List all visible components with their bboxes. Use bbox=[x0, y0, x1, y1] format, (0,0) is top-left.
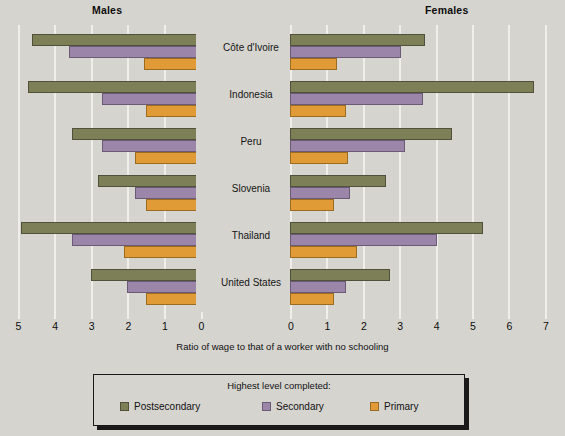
bar-female-primary-thailand bbox=[290, 246, 357, 258]
bar-female-primary-c-te-d-ivoire bbox=[290, 58, 337, 70]
bar-male-secondary-peru bbox=[102, 140, 201, 152]
bar-male-primary-c-te-d-ivoire bbox=[144, 58, 201, 70]
tick-label-right-7: 7 bbox=[543, 320, 549, 332]
bar-female-secondary-thailand bbox=[290, 234, 437, 246]
tick-left-1 bbox=[164, 312, 166, 319]
tick-right-1 bbox=[326, 312, 328, 319]
center-label-column bbox=[196, 25, 284, 312]
bar-female-secondary-indonesia bbox=[290, 93, 423, 105]
legend-label-postsecondary: Postsecondary bbox=[134, 401, 200, 412]
bar-male-postsecondary-c-te-d-ivoire bbox=[32, 34, 200, 46]
country-label-c-te-d-ivoire: Côte d'Ivoire bbox=[196, 42, 306, 53]
bar-male-secondary-united-states bbox=[127, 281, 200, 293]
bar-female-primary-united-states bbox=[290, 293, 334, 305]
bar-female-primary-indonesia bbox=[290, 105, 346, 117]
legend-label-primary: Primary bbox=[384, 401, 418, 412]
legend-swatch-primary-icon bbox=[370, 402, 379, 411]
tick-left-2 bbox=[127, 312, 129, 319]
tick-label-right-4: 4 bbox=[434, 320, 440, 332]
tick-right-7 bbox=[545, 312, 547, 319]
bar-male-secondary-thailand bbox=[72, 234, 200, 246]
legend-swatch-postsecondary-icon bbox=[120, 402, 129, 411]
bar-male-postsecondary-united-states bbox=[91, 269, 201, 281]
country-label-slovenia: Slovenia bbox=[196, 183, 306, 194]
bar-male-secondary-indonesia bbox=[102, 93, 201, 105]
tick-label-left-5: 5 bbox=[16, 320, 22, 332]
bar-female-secondary-c-te-d-ivoire bbox=[290, 46, 401, 58]
tick-label-left-3: 3 bbox=[89, 320, 95, 332]
bar-male-primary-thailand bbox=[124, 246, 201, 258]
bar-female-primary-slovenia bbox=[290, 199, 334, 211]
panel-title-males: Males bbox=[92, 4, 122, 16]
bar-male-postsecondary-slovenia bbox=[98, 175, 200, 187]
tick-right-2 bbox=[363, 312, 365, 319]
country-label-thailand: Thailand bbox=[196, 230, 306, 241]
bar-male-postsecondary-thailand bbox=[21, 222, 200, 234]
x-axis-caption: Ratio of wage to that of a worker with n… bbox=[0, 341, 565, 352]
tick-right-5 bbox=[472, 312, 474, 319]
tick-left-0 bbox=[201, 312, 203, 319]
bar-male-postsecondary-peru bbox=[72, 128, 200, 140]
tick-label-right-3: 3 bbox=[397, 320, 403, 332]
tick-label-right-0: 0 bbox=[288, 320, 294, 332]
x-axis: 54321001234567 bbox=[0, 312, 565, 342]
country-label-peru: Peru bbox=[196, 136, 306, 147]
bar-male-primary-slovenia bbox=[146, 199, 201, 211]
tick-label-left-1: 1 bbox=[162, 320, 168, 332]
bar-female-postsecondary-thailand bbox=[290, 222, 483, 234]
tick-right-6 bbox=[508, 312, 510, 319]
tick-label-left-4: 4 bbox=[52, 320, 58, 332]
country-label-indonesia: Indonesia bbox=[196, 89, 306, 100]
tick-right-4 bbox=[436, 312, 438, 319]
tick-left-3 bbox=[91, 312, 93, 319]
legend-title: Highest level completed: bbox=[94, 380, 464, 391]
bar-female-secondary-peru bbox=[290, 140, 405, 152]
bar-male-primary-indonesia bbox=[146, 105, 201, 117]
bar-male-primary-united-states bbox=[146, 293, 201, 305]
bar-female-primary-peru bbox=[290, 152, 348, 164]
tick-label-right-1: 1 bbox=[324, 320, 330, 332]
legend-swatch-secondary-icon bbox=[262, 402, 271, 411]
tick-left-5 bbox=[18, 312, 20, 319]
tick-label-left-2: 2 bbox=[125, 320, 131, 332]
legend-item-primary[interactable]: Primary bbox=[370, 401, 418, 412]
bar-male-secondary-slovenia bbox=[135, 187, 201, 199]
legend: Highest level completed: Postsecondary S… bbox=[93, 374, 465, 426]
tick-label-right-5: 5 bbox=[470, 320, 476, 332]
tick-label-left-0: 0 bbox=[199, 320, 205, 332]
bar-female-postsecondary-peru bbox=[290, 128, 452, 140]
tick-right-3 bbox=[399, 312, 401, 319]
legend-item-postsecondary[interactable]: Postsecondary bbox=[120, 401, 200, 412]
legend-items: Postsecondary Secondary Primary bbox=[94, 401, 464, 421]
plot-area: Côte d'IvoireIndonesiaPeruSloveniaThaila… bbox=[0, 25, 565, 312]
bar-male-primary-peru bbox=[135, 152, 201, 164]
chart-root: Côte d'IvoireIndonesiaPeruSloveniaThaila… bbox=[0, 0, 565, 436]
legend-label-secondary: Secondary bbox=[276, 401, 324, 412]
country-label-united-states: United States bbox=[196, 277, 306, 288]
tick-left-4 bbox=[54, 312, 56, 319]
tick-label-right-2: 2 bbox=[361, 320, 367, 332]
bar-male-secondary-c-te-d-ivoire bbox=[69, 46, 201, 58]
bar-female-postsecondary-c-te-d-ivoire bbox=[290, 34, 425, 46]
bar-male-postsecondary-indonesia bbox=[28, 81, 200, 93]
panel-title-females: Females bbox=[425, 4, 468, 16]
legend-item-secondary[interactable]: Secondary bbox=[262, 401, 324, 412]
tick-right-0 bbox=[290, 312, 292, 319]
bar-female-postsecondary-indonesia bbox=[290, 81, 534, 93]
tick-label-right-6: 6 bbox=[506, 320, 512, 332]
